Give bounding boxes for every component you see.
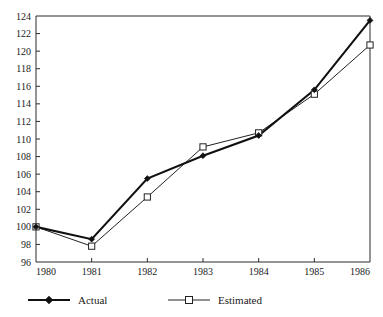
chart-legend: Actual Estimated [28,294,262,306]
y-axis-tick-marks [36,34,40,245]
x-axis-tick-labels: 1980198119821983198419851986 [36,266,370,277]
legend-marker-actual [45,296,53,304]
data-point-estimated [200,144,206,150]
x-tick-label: 1982 [137,266,157,277]
y-tick-label: 104 [16,186,31,197]
chart-page: 9698100102104106108110112114116118120122… [0,0,383,317]
legend-label-estimated: Estimated [218,294,262,306]
legend-label-actual: Actual [78,294,107,306]
x-tick-label: 1980 [36,266,56,277]
series-markers-estimated [33,42,373,249]
data-point-estimated [144,194,150,200]
x-tick-label: 1981 [82,266,102,277]
line-chart: 9698100102104106108110112114116118120122… [0,0,383,317]
series-line-actual [36,20,370,239]
y-tick-label: 112 [16,116,31,127]
x-axis-tick-marks [92,258,315,262]
y-tick-label: 116 [16,81,31,92]
y-tick-label: 124 [16,11,31,22]
y-tick-label: 98 [21,239,31,250]
y-tick-label: 108 [16,151,31,162]
x-tick-label: 1984 [249,266,269,277]
y-tick-label: 118 [16,63,31,74]
y-tick-label: 106 [16,169,31,180]
x-tick-label: 1983 [193,266,213,277]
y-axis-tick-labels: 9698100102104106108110112114116118120122… [16,11,31,268]
series-markers-actual [33,17,373,242]
y-tick-label: 100 [16,221,31,232]
y-tick-label: 114 [16,98,31,109]
x-tick-label: 1985 [304,266,324,277]
data-point-estimated [89,243,95,249]
x-tick-label: 1986 [350,266,370,277]
legend-marker-estimated [186,297,193,304]
data-point-actual [200,153,206,159]
y-tick-label: 102 [16,204,31,215]
y-tick-label: 122 [16,28,31,39]
y-tick-label: 96 [21,257,31,268]
y-tick-label: 110 [16,134,31,145]
data-point-estimated [367,42,373,48]
y-tick-label: 120 [16,46,31,57]
